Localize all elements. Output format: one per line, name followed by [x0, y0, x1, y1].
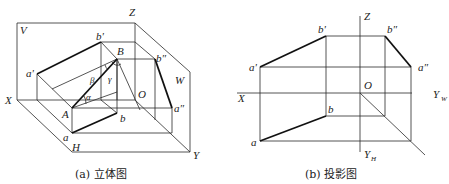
label-z: Z — [129, 6, 136, 18]
label-yh-sub: H — [370, 155, 377, 163]
label-o-b: O — [364, 79, 372, 91]
label-b-b: b — [328, 103, 334, 115]
label-a-dprime: a″ — [174, 102, 185, 114]
caption-b: (b) 投影图 — [305, 167, 357, 181]
bz-to-b-dprime — [135, 42, 155, 59]
label-b: b — [120, 112, 126, 124]
b-prime-to-B — [101, 42, 117, 59]
label-b-dprime-b: b″ — [387, 23, 398, 35]
label-beta: β — [89, 75, 95, 85]
figure-b-projection-view: Z X O Y W Y H a' b' b″ a″ b a (b) 投影图 — [237, 10, 448, 181]
diagonal-45 — [360, 93, 425, 155]
label-A: A — [61, 108, 69, 120]
a-dprime-b-dprime — [155, 59, 172, 108]
label-B: B — [117, 45, 124, 57]
b-dprime-a-dprime-b — [385, 36, 411, 67]
label-a-b: a — [251, 136, 257, 148]
label-b-dprime: b″ — [156, 52, 167, 64]
a-prime-to-A — [37, 74, 72, 108]
label-y: Y — [193, 149, 201, 161]
B-to-ow — [117, 59, 140, 110]
label-alpha: α — [86, 92, 91, 102]
a-prime-b-prime — [37, 42, 101, 74]
figure-a-3d-view: V Z X O W H Y a' b' B b″ a″ A a b α β γ … — [4, 6, 201, 181]
x-to-b — [101, 100, 117, 113]
label-yw-sub: W — [441, 95, 448, 103]
a-prime-b-prime-b — [260, 36, 326, 67]
label-b-prime-b: b' — [318, 23, 327, 35]
label-a-prime-b: a' — [249, 61, 258, 73]
projection-figure: V Z X O W H Y a' b' B b″ a″ A a b α β γ … — [0, 0, 449, 184]
label-a-prime: a' — [26, 67, 35, 79]
label-b-prime: b' — [96, 30, 105, 42]
label-v: V — [20, 24, 28, 36]
label-w: W — [175, 74, 185, 86]
label-x-b: X — [237, 92, 246, 104]
label-z-b: Z — [364, 10, 371, 22]
label-a-dprime-b: a″ — [418, 61, 429, 73]
caption-a: (a) 立体图 — [75, 167, 127, 181]
ab-line — [72, 113, 117, 133]
label-gamma: γ — [108, 74, 112, 84]
ab-b — [260, 116, 326, 141]
label-a: a — [63, 131, 69, 143]
label-h: H — [71, 141, 81, 153]
label-yw: Y — [433, 88, 441, 100]
label-o: O — [138, 88, 146, 100]
label-x: X — [4, 94, 13, 106]
